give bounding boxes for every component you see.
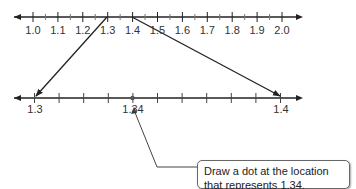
callout-line-1: Draw a dot at the location [204,164,343,178]
top-label: 1.0 [25,24,40,36]
connector-arrow-left [36,17,107,96]
top-number-line [14,12,303,22]
top-label: 1.1 [50,24,65,36]
callout-pointer [134,110,197,167]
instruction-callout: Draw a dot at the location that represen… [197,160,350,189]
callout-line-2: that represents 1.34. [204,178,343,189]
top-label: 1.4 [125,24,140,36]
right-arrow-icon [296,95,303,101]
top-label: 1.8 [225,24,240,36]
bottom-label-point: 1.34 [122,103,143,115]
bottom-number-line [14,93,303,103]
top-label: 1.2 [75,24,90,36]
top-label: 1.3 [100,24,115,36]
left-arrow-icon [14,95,21,101]
top-label: 1.5 [150,24,165,36]
top-label: 1.9 [249,24,264,36]
top-label: 1.6 [175,24,190,36]
left-arrow-icon [14,14,21,20]
bottom-label-left: 1.3 [27,103,42,115]
bottom-label-right: 1.4 [273,103,288,115]
top-label: 2.0 [274,24,289,36]
point-1-34-dot [130,96,134,100]
right-arrow-icon [296,14,303,20]
top-ticks [33,12,282,22]
top-label: 1.7 [200,24,215,36]
